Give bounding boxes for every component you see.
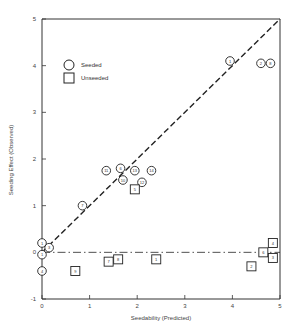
x-tick-label: 3 (183, 303, 187, 309)
unseeded-point: 8 (114, 255, 123, 264)
y-tick-label: 2 (33, 156, 37, 162)
y-tick-label: 5 (33, 16, 37, 22)
y-tick-label: -1 (31, 296, 37, 302)
point-label: 10 (121, 178, 126, 183)
reference-lines (42, 19, 280, 252)
seeded-point: 11 (102, 166, 111, 175)
seeded-point: 10 (119, 176, 128, 185)
scatter-chart: 012345-1012345 1134711610131214128978512… (0, 0, 297, 333)
seeded-point: 6 (116, 164, 125, 173)
y-tick-label: 4 (33, 63, 37, 69)
seeded-point: 4 (38, 267, 47, 276)
point-label: 12 (140, 180, 145, 185)
unseeded-point: 3 (268, 253, 277, 262)
unseeded-point: 7 (104, 257, 113, 266)
legend-label: Unseeded (81, 75, 108, 81)
unseeded-point: 6 (259, 248, 268, 257)
identity-line (42, 19, 280, 252)
legend: SeededUnseeded (64, 60, 108, 83)
legend-item-unseeded: Unseeded (64, 73, 108, 83)
seeded-point: 2 (257, 59, 266, 68)
seeded-point: 1 (226, 57, 235, 66)
legend-item-seeded: Seeded (64, 60, 102, 70)
point-label: 14 (149, 168, 154, 173)
x-axis-title: Seedability (Predicted) (131, 315, 191, 321)
seeded-point: 8 (266, 59, 275, 68)
y-tick-label: 1 (33, 203, 37, 209)
y-tick-label: 0 (33, 249, 37, 255)
circle-legend-icon (64, 60, 74, 70)
seeded-point: 1 (38, 250, 47, 259)
seeded-point: 14 (147, 166, 156, 175)
x-tick-label: 2 (136, 303, 140, 309)
x-tick-label: 1 (88, 303, 92, 309)
unseeded-point: 9 (71, 267, 80, 276)
unseeded-point: 1 (152, 255, 161, 264)
unseeded-point: 2 (247, 262, 256, 271)
seeded-point: 13 (131, 166, 140, 175)
y-axis-title: Seeding Effect (Observed) (8, 125, 14, 196)
seeded-point: 3 (45, 243, 54, 252)
unseeded-point: 4 (268, 239, 277, 248)
point-label: 13 (133, 168, 138, 173)
data-points: 1134711610131214128978512643 (38, 57, 278, 276)
square-legend-icon (64, 73, 74, 83)
legend-label: Seeded (81, 62, 102, 68)
x-tick-label: 0 (40, 303, 44, 309)
seeded-point: 7 (78, 201, 87, 210)
x-tick-label: 5 (278, 303, 282, 309)
y-tick-label: 3 (33, 109, 37, 115)
x-tick-label: 4 (231, 303, 235, 309)
unseeded-point: 5 (130, 185, 139, 194)
